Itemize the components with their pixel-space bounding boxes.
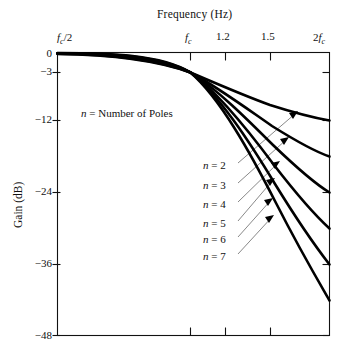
plot-frame xyxy=(58,53,330,336)
curve-n2 xyxy=(58,54,330,121)
bottom-axis-ticks xyxy=(191,328,271,336)
butterworth-response-figure: Frequency (Hz) Gain (dB) fc/2 fc 1.2 1.5… xyxy=(0,0,346,352)
left-axis-ticks xyxy=(53,73,61,336)
curve-n3 xyxy=(58,54,330,157)
plot-canvas xyxy=(0,0,346,352)
curve-n5 xyxy=(58,53,330,228)
top-axis-ticks xyxy=(191,53,271,61)
response-curves xyxy=(58,53,330,300)
curve-n7 xyxy=(58,53,330,300)
leader-arrowheads xyxy=(264,111,298,223)
